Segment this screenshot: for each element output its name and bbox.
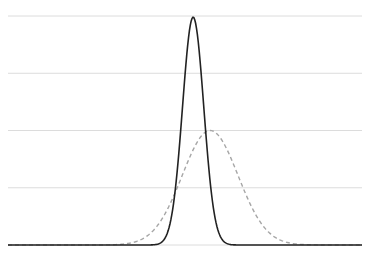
- y-gridlines: [8, 16, 362, 245]
- narrow-solid-curve: [8, 17, 362, 245]
- gaussian-line-chart: [0, 0, 370, 264]
